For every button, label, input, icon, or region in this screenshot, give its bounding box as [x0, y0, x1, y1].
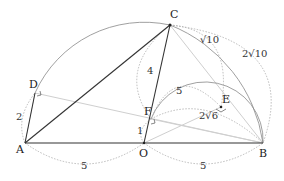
label-c: C: [170, 8, 178, 21]
measure-fb: 2√6: [199, 110, 218, 121]
point-o: [143, 142, 145, 144]
measure-ob: 5: [200, 160, 206, 171]
point-c: [169, 24, 172, 27]
measure-ce: √10: [200, 34, 219, 45]
measure-oc: 4: [147, 65, 153, 76]
geometry-diagram: A O B C D E F 2 5 5 4 1 5 √10 2√10 2√6: [0, 0, 284, 181]
measure-ad: 2: [16, 111, 22, 122]
point-e: [220, 106, 223, 109]
measure-ao: 5: [81, 160, 87, 171]
measure-of: 1: [137, 125, 143, 136]
measure-fe: 5: [176, 85, 182, 96]
label-d: D: [29, 78, 38, 91]
measure-cb: 2√10: [242, 48, 267, 59]
label-a: A: [15, 143, 25, 156]
segment-fb: [151, 119, 263, 143]
right-angle-marks: [37, 91, 226, 124]
arcs: [35, 22, 263, 143]
label-e: E: [222, 93, 230, 106]
label-o: O: [139, 147, 148, 160]
label-b: B: [259, 147, 267, 160]
label-f: F: [144, 105, 152, 118]
arc-dc: [35, 22, 170, 93]
